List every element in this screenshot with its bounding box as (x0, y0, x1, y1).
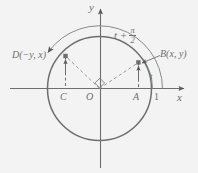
unit-circle-figure: y x D(−y, x) B(x, y) C O A 1 t t + π 2 (0, 0, 198, 173)
point-label-B: B(x, y) (160, 49, 187, 59)
x-axis-label: x (177, 92, 182, 103)
point-label-C: C (60, 92, 67, 102)
figure-canvas (0, 0, 198, 173)
angle-label-base: t + (114, 30, 127, 41)
fraction-denominator: 2 (130, 36, 136, 45)
point-label-A: A (133, 92, 139, 102)
origin-label-O: O (86, 92, 93, 102)
fraction-half-pi: π 2 (129, 26, 136, 45)
point-label-D: D(−y, x) (12, 50, 46, 60)
angle-label-t-plus-half-pi: t + π 2 (114, 26, 136, 45)
point-marker-B (136, 60, 140, 64)
fraction-numerator: π (130, 26, 136, 35)
unit-tick-label: 1 (154, 92, 159, 102)
angle-label-t: t (150, 72, 153, 81)
point-marker-D (63, 54, 67, 58)
y-axis-label: y (89, 2, 94, 13)
